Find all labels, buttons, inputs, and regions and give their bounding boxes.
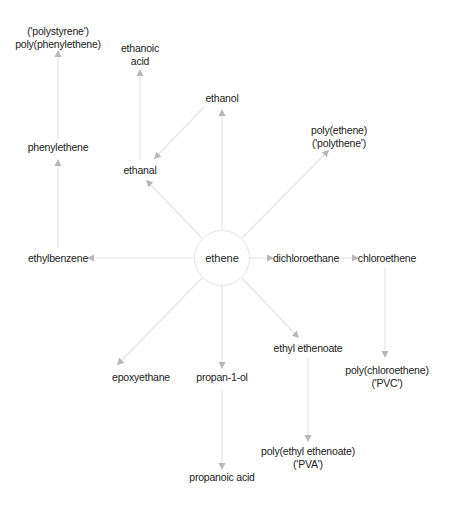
node-ethanal: ethanal xyxy=(123,164,156,177)
edge-ethene-ethyl-ethenoate xyxy=(242,278,297,336)
node-dichloroethane: dichloroethane xyxy=(273,252,339,265)
node-pvc-line1: poly(chloroethene) xyxy=(345,364,428,377)
node-polystyrene-line2: poly(phenylethene) xyxy=(15,38,101,51)
edge-ethanol-ethanal xyxy=(156,107,204,157)
node-pva-line2: ('PVA') xyxy=(261,458,355,471)
node-ethanol: ethanol xyxy=(205,92,238,105)
node-chloroethene: chloroethene xyxy=(358,252,416,265)
node-epoxyethane: epoxyethane xyxy=(112,371,170,384)
edge-ethene-epoxyethane xyxy=(119,278,202,363)
node-ethanoic-acid-line2: acid xyxy=(121,55,159,68)
node-ethylbenzene: ethylbenzene xyxy=(28,252,88,265)
node-propanoic-acid: propanoic acid xyxy=(189,471,255,484)
node-pva-line1: poly(ethyl ethenoate) xyxy=(261,445,355,458)
node-pvc-line2: ('PVC') xyxy=(345,377,428,390)
node-ethene-label: ethene xyxy=(205,252,239,264)
node-polystyrene-line1: ('polystyrene') xyxy=(15,25,101,38)
node-ethanoic-acid-line1: ethanoic xyxy=(121,42,159,55)
node-polythene: poly(ethene) ('polythene') xyxy=(311,124,367,150)
node-pva: poly(ethyl ethenoate) ('PVA') xyxy=(261,445,355,471)
node-polythene-line1: poly(ethene) xyxy=(311,124,367,137)
node-polystyrene: ('polystyrene') poly(phenylethene) xyxy=(15,25,101,51)
node-ethanoic-acid: ethanoic acid xyxy=(121,42,159,68)
node-ethene: ethene xyxy=(194,230,250,286)
edge-ethene-polythene xyxy=(242,152,327,238)
node-ethyl-ethenoate: ethyl ethenoate xyxy=(274,342,343,355)
node-polythene-line2: ('polythene') xyxy=(311,137,367,150)
edge-ethene-ethanal xyxy=(148,182,202,238)
node-phenylethene: phenylethene xyxy=(28,141,89,154)
node-pvc: poly(chloroethene) ('PVC') xyxy=(345,364,428,390)
node-propan-1-ol: propan-1-ol xyxy=(196,371,248,384)
